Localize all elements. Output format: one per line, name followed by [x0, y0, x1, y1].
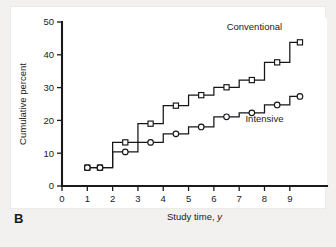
marker-conventional-7: [249, 77, 254, 82]
x-tick-label-3: 3: [135, 193, 140, 204]
y-tick-label-10: 10: [43, 148, 54, 159]
x-tick-label-7: 7: [237, 193, 242, 204]
series-label-conventional: Conventional: [227, 21, 282, 32]
plot-area-background: [11, 7, 328, 209]
x-axis-title-text: Study time,: [167, 211, 217, 222]
x-tick-label-5: 5: [186, 193, 191, 204]
x-tick-label-2: 2: [110, 193, 115, 204]
marker-conventional-5: [199, 93, 204, 98]
plot-background-2: [62, 18, 327, 186]
marker-conventional-6: [224, 85, 229, 90]
marker-conventional-4: [173, 103, 178, 108]
marker-intensive-9: [297, 94, 303, 100]
marker-intensive-3: [148, 140, 154, 146]
y-axis-title: Cumulative percent: [17, 63, 28, 145]
x-tick-label-6: 6: [211, 193, 216, 204]
figure-inner: 010203040500123456789 ConventionalIntens…: [0, 0, 336, 247]
series-label-intensive: Intensive: [245, 113, 283, 124]
y-tick-label-30: 30: [43, 82, 54, 93]
marker-conventional-9: [297, 40, 302, 45]
figure-panel: 010203040500123456789 ConventionalIntens…: [0, 0, 336, 247]
marker-intensive-1: [97, 165, 103, 171]
marker-conventional-8: [275, 60, 280, 65]
y-tick-label-0: 0: [49, 180, 54, 191]
x-tick-label-4: 4: [161, 193, 166, 204]
x-tick-label-0: 0: [59, 193, 64, 204]
marker-intensive-2: [122, 149, 128, 155]
marker-intensive-6: [224, 114, 230, 120]
x-axis-title: Study time, y: [167, 211, 223, 222]
cumulative-percent-chart: 010203040500123456789 ConventionalIntens…: [0, 0, 336, 247]
marker-conventional-2: [123, 140, 128, 145]
x-tick-label-1: 1: [85, 193, 90, 204]
y-tick-label-40: 40: [43, 49, 54, 60]
panel-label: B: [14, 211, 23, 226]
y-tick-label-20: 20: [43, 115, 54, 126]
x-tick-label-8: 8: [262, 193, 267, 204]
marker-intensive-0: [85, 165, 91, 171]
marker-conventional-3: [148, 121, 153, 126]
marker-intensive-4: [173, 131, 179, 137]
marker-intensive-8: [274, 102, 280, 108]
x-tick-label-9: 9: [287, 193, 292, 204]
marker-intensive-5: [198, 124, 204, 130]
x-axis-title-unit: y: [216, 211, 223, 222]
y-tick-label-50: 50: [43, 16, 54, 27]
